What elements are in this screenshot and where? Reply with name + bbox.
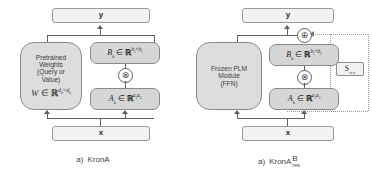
connector-kron-lower: [125, 81, 126, 88]
caption-krona-b-res-script: Bres: [292, 155, 300, 168]
caption-krona-b-res-label: a): [258, 157, 265, 166]
caption-sub-res: res: [292, 163, 300, 169]
frozen-weights-line-4: Value): [42, 76, 61, 83]
residual-path-top: [312, 34, 368, 35]
input-box-x-2: x: [242, 126, 334, 141]
matrix-a-var-sub: k: [114, 99, 116, 104]
frozen-plm-line-2: Module: [218, 72, 240, 79]
connector-split-left: [47, 114, 48, 119]
matrix-a-var-sub-2: k: [293, 99, 295, 104]
matrix-b-exp-2-sub-2: 2: [320, 52, 322, 56]
panel-krona-b-res: y ⊕ Sres Frozen PLM Module (FFN) Bk ∈ ℝb…: [186, 0, 372, 180]
output-box-y: y: [52, 8, 150, 23]
matrix-a-formula: Ak ∈ ℝa1a2: [109, 95, 142, 104]
matrix-a-exp-2-sub: 2: [140, 96, 142, 100]
kron-glyph-2: ⊗: [301, 73, 309, 82]
output-box-y-2: y: [242, 8, 334, 23]
output-label-y-2: y: [286, 11, 290, 20]
arrow-residual-into-add: [310, 31, 314, 37]
matrix-box-a-2: Ak ∈ ℝa1a2: [269, 88, 339, 110]
caption-krona-label: a): [76, 155, 83, 164]
input-box-x: x: [52, 126, 150, 141]
kron-glyph: ⊗: [122, 71, 130, 80]
matrix-b-in: ∈: [116, 48, 123, 57]
residual-path-bottom: [287, 111, 368, 112]
frozen-weights-block: Pretrained Weights (Query or Value) W ∈ …: [20, 42, 82, 110]
scale-box-sres: Sres: [336, 62, 364, 76]
formula-in-w: ∈: [41, 88, 49, 98]
input-label-x-2: x: [286, 129, 290, 138]
arrow-to-y-2: [284, 25, 290, 29]
matrix-a-exp-2-sub-2: 2: [319, 96, 321, 100]
connector-split-left-2: [237, 114, 238, 119]
caption-krona-b-res-name: KronA: [269, 157, 291, 166]
connector-x-stem-2: [287, 118, 288, 126]
matrix-a-in-2: ∈: [297, 94, 304, 103]
connector-split-bar-bottom-2: [237, 118, 304, 119]
connector-split-right-2: [304, 114, 305, 119]
arrow-to-frozen-plm: [234, 110, 240, 114]
frozen-weights-line-1: Pretrained: [36, 54, 66, 61]
matrix-a-formula-2: Ak ∈ ℝa1a2: [288, 95, 321, 104]
matrix-box-b: Bk ∈ ℝb1×b2: [90, 42, 160, 64]
frozen-plm-line-1: Frozen PLM: [211, 65, 247, 72]
scale-box-formula: Sres: [345, 65, 355, 73]
connector-merge-bar-top-2: [237, 35, 304, 36]
connector-split-right: [125, 114, 126, 119]
frozen-weights-formula: W ∈ ℝdh×dh: [31, 88, 71, 98]
arrow-to-matrix-a: [122, 110, 128, 114]
arrow-to-frozen-weights: [44, 110, 50, 114]
connector-x-stem: [100, 118, 101, 126]
input-label-x: x: [99, 129, 103, 138]
figure-canvas: y Pretrained Weights (Query or Value) W …: [0, 0, 372, 180]
caption-krona-b-res: a)KronABres: [186, 155, 372, 168]
output-label-y: y: [99, 11, 103, 20]
caption-krona-name: KronA: [87, 155, 109, 164]
matrix-b-var-sub-2: k: [291, 55, 293, 60]
matrix-b-exp-2-sub: 2: [141, 50, 143, 54]
frozen-weights-line-2: Weights: [39, 61, 63, 68]
formula-exp-d2-sub: h: [69, 91, 71, 95]
matrix-a-in: ∈: [118, 94, 125, 103]
formula-var-w: W: [31, 88, 39, 98]
matrix-box-a: Ak ∈ ℝa1a2: [90, 88, 160, 110]
add-glyph: ⊕: [301, 31, 309, 40]
matrix-b-in-2: ∈: [295, 50, 302, 59]
frozen-weights-line-3: (Query or: [37, 68, 65, 75]
residual-path-right: [368, 34, 369, 111]
caption-krona: a)KronA: [0, 155, 186, 164]
connector-merge-bar-top: [47, 35, 154, 36]
matrix-b-formula-2: Bk ∈ ℝb1×b2: [286, 51, 321, 60]
arrow-to-y: [97, 25, 103, 29]
frozen-plm-line-3: (FFN): [220, 80, 237, 87]
arrow-to-matrix-a-2: [301, 110, 307, 114]
matrix-b-formula: Bk ∈ ℝb1×b2: [107, 49, 142, 58]
panel-krona: y Pretrained Weights (Query or Value) W …: [0, 0, 186, 180]
matrix-b-var-sub: k: [112, 53, 114, 58]
frozen-plm-block: Frozen PLM Module (FFN): [196, 42, 262, 110]
scale-box-sub: res: [349, 69, 355, 74]
matrix-box-b-2: Bk ∈ ℝb1×b2: [269, 44, 339, 66]
